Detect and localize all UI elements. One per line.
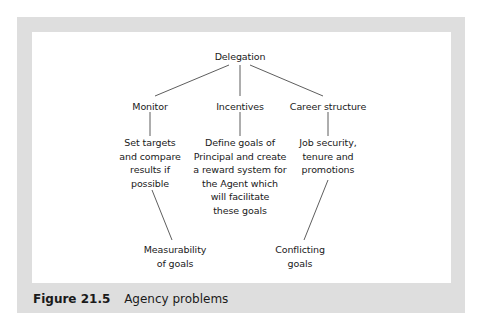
connector-career-problem [304, 180, 328, 240]
node-monitor-detail: Set targets and compare results if possi… [119, 136, 180, 190]
text-line: Principal and create [193, 150, 286, 164]
text-line: a reward system for [193, 163, 286, 177]
text-line: goals [275, 257, 325, 271]
text-line: will facilitate [193, 190, 286, 204]
node-career-structure: Career structure [290, 100, 366, 114]
node-measurability-of-goals: Measurability of goals [144, 243, 207, 270]
connector-delegation-monitor [155, 65, 229, 96]
node-conflicting-goals: Conflicting goals [275, 243, 325, 270]
text-line: of goals [144, 257, 207, 271]
text-line: Set targets [119, 136, 180, 150]
figure-caption: Figure 21.5 Agency problems [33, 292, 228, 306]
text-line: Job security, [299, 136, 356, 150]
text-line: Measurability [144, 243, 207, 257]
text-line: these goals [193, 204, 286, 218]
text-line: the Agent which [193, 177, 286, 191]
text-line: promotions [299, 163, 356, 177]
node-monitor: Monitor [132, 100, 167, 114]
text-line: possible [119, 177, 180, 191]
text-line: Define goals of [193, 136, 286, 150]
connector-monitor-problem [152, 190, 172, 240]
figure-title: Agency problems [124, 292, 228, 306]
node-career-detail: Job security, tenure and promotions [299, 136, 356, 177]
node-incentives-detail: Define goals of Principal and create a r… [193, 136, 286, 218]
figure-number: Figure 21.5 [33, 292, 110, 306]
text-line: Conflicting [275, 243, 325, 257]
connector-delegation-career [250, 65, 323, 96]
text-line: tenure and [299, 150, 356, 164]
node-incentives: Incentives [216, 100, 264, 114]
text-line: results if [119, 163, 180, 177]
text-line: and compare [119, 150, 180, 164]
node-delegation: Delegation [215, 50, 266, 64]
